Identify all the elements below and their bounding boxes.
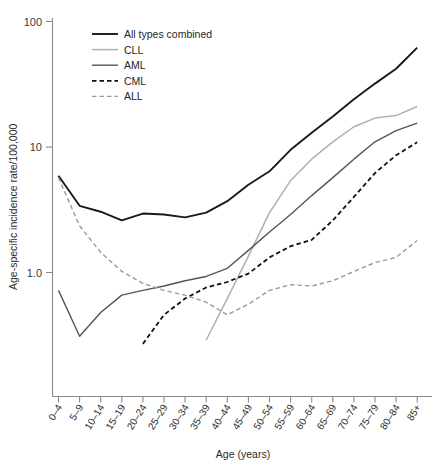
x-tick-label: 55–59 xyxy=(272,402,296,432)
x-tick-label: 5–9 xyxy=(67,402,85,422)
legend-label: ALL xyxy=(124,90,143,102)
x-tick-label: 50–54 xyxy=(251,402,275,432)
x-tick-label: 40–44 xyxy=(209,402,233,432)
y-tick-label: 10 xyxy=(30,141,42,153)
y-axis-ticks: 100101.0 xyxy=(24,16,53,279)
x-tick-label: 60–64 xyxy=(293,402,317,432)
x-tick-label: 20–24 xyxy=(125,402,149,432)
chart-axes xyxy=(53,18,433,397)
x-tick-label: 35–39 xyxy=(188,402,212,432)
x-tick-label: 65–69 xyxy=(314,402,338,432)
x-tick-label: 85+ xyxy=(405,402,423,422)
chart-container: 100101.0 0–45–910–1415–1920–2425–2930–34… xyxy=(0,0,445,465)
y-tick-label: 1.0 xyxy=(27,267,42,279)
legend-label: All types combined xyxy=(124,28,212,40)
chart-series xyxy=(59,48,418,344)
x-axis-ticks xyxy=(59,397,418,403)
series-line xyxy=(143,142,417,344)
x-tick-label: 45–49 xyxy=(230,402,254,432)
series-line xyxy=(206,107,417,340)
x-tick-label: 15–19 xyxy=(103,402,127,432)
x-axis-category-labels: 0–45–910–1415–1920–2425–2930–3435–3940–4… xyxy=(46,402,423,432)
y-axis-title: Age-specific incidence rate/100,000 xyxy=(7,123,19,290)
x-tick-label: 10–14 xyxy=(82,402,106,432)
legend-label: AML xyxy=(124,59,146,71)
y-tick-label: 100 xyxy=(24,16,42,28)
chart-legend: All types combinedCLLAMLCMLALL xyxy=(92,28,212,102)
series-line xyxy=(59,178,418,315)
x-tick-label: 75–79 xyxy=(357,402,381,432)
legend-label: CML xyxy=(124,75,146,87)
incidence-rate-line-chart: 100101.0 0–45–910–1415–1920–2425–2930–34… xyxy=(0,0,445,465)
x-tick-label: 30–34 xyxy=(167,402,191,432)
x-tick-label: 25–29 xyxy=(146,402,170,432)
x-tick-label: 70–74 xyxy=(336,402,360,432)
series-line xyxy=(59,123,418,336)
x-tick-label: 0–4 xyxy=(46,402,64,422)
legend-label: CLL xyxy=(124,44,143,56)
x-tick-label: 80–84 xyxy=(378,402,402,432)
series-line xyxy=(59,48,418,221)
x-axis-title: Age (years) xyxy=(216,448,270,460)
